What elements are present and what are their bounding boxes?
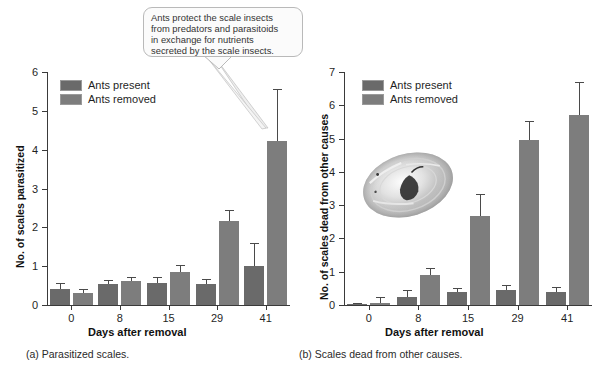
error-bar-cap: [176, 265, 185, 266]
y-axis-tick-label: 0: [313, 299, 335, 311]
bar-ants-removed: [470, 216, 490, 305]
x-axis-tick-label: 0: [354, 312, 384, 324]
y-axis-tick: [339, 105, 344, 106]
y-axis-tick: [339, 272, 344, 273]
y-axis-line: [344, 72, 345, 305]
error-bar-cap: [79, 289, 88, 290]
error-bar: [254, 243, 255, 266]
legend-swatch-ants-removed: [362, 94, 384, 105]
x-axis-tick: [418, 306, 419, 310]
error-bar: [277, 89, 278, 141]
error-bar: [229, 210, 230, 221]
legend-swatch-ants-removed: [60, 94, 82, 105]
y-axis-tick: [339, 72, 344, 73]
chart-parasitized-scales: 012345608152941: [47, 72, 290, 305]
x-axis-tick-label: 15: [154, 312, 184, 324]
y-axis-tick: [42, 150, 47, 151]
x-axis-tick: [369, 306, 370, 310]
bar-ants-removed: [170, 272, 190, 305]
legend-swatch-ants-present: [60, 80, 82, 91]
y-axis-tick: [42, 305, 47, 306]
y-axis-tick-label: 6: [313, 99, 335, 111]
x-axis-tick-label: 29: [202, 312, 232, 324]
x-axis-tick-label: 29: [503, 312, 533, 324]
x-axis-label-panel-a: Days after removal: [88, 326, 186, 338]
bar-ants-removed: [121, 281, 141, 305]
y-axis-line: [47, 72, 48, 305]
scale-insect-photo: [352, 138, 464, 233]
y-axis-tick: [339, 205, 344, 206]
error-bar-cap: [127, 277, 136, 278]
error-bar-cap: [453, 288, 462, 289]
error-bar-cap: [56, 283, 65, 284]
y-axis-tick: [339, 172, 344, 173]
error-bar: [480, 194, 481, 216]
x-axis-tick: [169, 306, 170, 310]
legend-label-ants-present: Ants present: [88, 79, 150, 92]
y-axis-tick: [42, 227, 47, 228]
error-bar: [430, 268, 431, 275]
y-axis-tick: [339, 238, 344, 239]
bar-ants-removed: [219, 221, 239, 305]
bar-ants-present: [447, 292, 467, 305]
legend-swatch-ants-present: [362, 80, 384, 91]
x-axis-tick: [266, 306, 267, 310]
bar-ants-removed: [519, 140, 539, 305]
y-axis-label-panel-a: No. of scales parasitized: [14, 145, 26, 268]
x-axis-tick-label: 41: [251, 312, 281, 324]
error-bar-cap: [426, 268, 435, 269]
bar-ants-present: [98, 284, 118, 305]
y-axis-tick: [42, 72, 47, 73]
x-axis-tick: [567, 306, 568, 310]
x-axis-tick-label: 0: [56, 312, 86, 324]
error-bar-cap: [552, 287, 561, 288]
y-axis-tick: [42, 111, 47, 112]
x-axis-tick-label: 41: [552, 312, 582, 324]
error-bar-cap: [202, 279, 211, 280]
error-bar: [579, 82, 580, 115]
bar-ants-present: [244, 266, 264, 305]
y-axis-tick: [339, 139, 344, 140]
y-axis-tick: [42, 189, 47, 190]
bar-ants-present: [147, 283, 167, 305]
error-bar: [529, 121, 530, 140]
error-bar-cap: [153, 277, 162, 278]
x-axis-label-panel-b: Days after removal: [385, 326, 483, 338]
caption-panel-a: (a) Parasitized scales.: [26, 348, 129, 360]
error-bar-cap: [502, 285, 511, 286]
error-bar-cap: [476, 194, 485, 195]
bar-ants-present: [397, 297, 417, 305]
bar-ants-removed: [267, 141, 287, 305]
error-bar-cap: [376, 297, 385, 298]
legend-label-ants-removed: Ants removed: [390, 93, 458, 106]
error-bar-cap: [353, 303, 362, 304]
x-axis-tick: [518, 306, 519, 310]
legend-label-ants-present: Ants present: [390, 79, 452, 92]
bar-ants-present: [546, 292, 566, 305]
x-axis-tick: [120, 306, 121, 310]
y-axis-tick-label: 7: [313, 66, 335, 78]
legend-label-ants-removed: Ants removed: [88, 93, 156, 106]
error-bar-cap: [273, 89, 282, 90]
y-axis-label-panel-b: No. of scales dead from other causes: [318, 114, 330, 300]
x-axis-tick-label: 15: [453, 312, 483, 324]
error-bar-cap: [104, 280, 113, 281]
y-axis-tick-label: 6: [16, 66, 38, 78]
bar-ants-removed: [569, 115, 589, 305]
error-bar-cap: [525, 121, 534, 122]
x-axis-tick-label: 8: [105, 312, 135, 324]
bar-ants-present: [196, 284, 216, 305]
error-bar-cap: [250, 243, 259, 244]
callout-text: Ants protect the scale insects from pred…: [151, 12, 296, 56]
x-axis-tick: [468, 306, 469, 310]
caption-panel-b: (b) Scales dead from other causes.: [299, 348, 462, 360]
x-axis-tick: [217, 306, 218, 310]
y-axis-tick: [339, 305, 344, 306]
callout-box: Ants protect the scale insects from pred…: [143, 7, 303, 57]
y-axis-tick-label: 5: [16, 105, 38, 117]
bar-ants-removed: [370, 303, 390, 305]
y-axis-tick-label: 0: [16, 299, 38, 311]
bar-ants-removed: [73, 293, 93, 305]
x-axis-tick: [71, 306, 72, 310]
bar-ants-present: [496, 290, 516, 305]
